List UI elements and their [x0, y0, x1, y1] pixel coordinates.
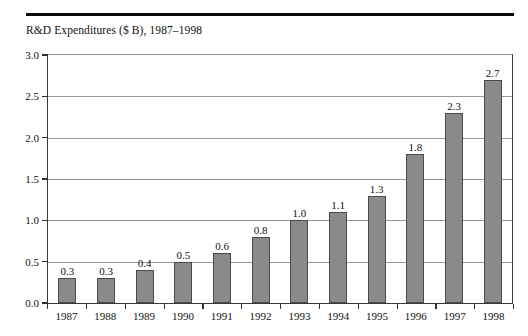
y-axis-tick-mark: [42, 261, 48, 262]
x-axis-tick-label: 1989: [125, 310, 164, 322]
bar: 2.7: [484, 80, 502, 303]
bar-value-label: 0.3: [60, 266, 74, 277]
x-axis-tick-mark: [319, 304, 320, 309]
bar-value-label: 1.1: [331, 200, 345, 211]
bar: 0.3: [58, 278, 76, 303]
bars-group: 0.30.30.40.50.60.81.01.11.31.82.32.7: [48, 55, 512, 303]
y-axis-tick-label: 3.0: [25, 50, 39, 61]
x-axis-tick-mark: [474, 304, 475, 309]
bar: 1.1: [329, 212, 347, 303]
x-axis-tick-mark: [513, 304, 514, 309]
bar-value-label: 1.0: [292, 208, 306, 219]
y-axis-tick-mark: [42, 178, 48, 179]
x-axis-tick-label: 1987: [47, 310, 86, 322]
x-axis-tick-mark: [86, 304, 87, 309]
x-axis-tick-mark: [435, 304, 436, 309]
bar-value-label: 1.8: [409, 142, 423, 153]
x-axis-tick-label: 1990: [163, 310, 202, 322]
bar: 1.0: [290, 220, 308, 303]
y-axis-tick-mark: [42, 302, 48, 303]
y-axis-tick-mark: [42, 220, 48, 221]
x-axis-tick-mark: [280, 304, 281, 309]
bar-slot: 0.4: [125, 55, 164, 303]
y-axis-tick-label: 0.0: [25, 298, 39, 309]
bar: 0.4: [136, 270, 154, 303]
y-axis-tick-label: 1.0: [25, 215, 39, 226]
bar-value-label: 0.8: [254, 225, 268, 236]
x-axis-tick-label: 1991: [202, 310, 241, 322]
bar-slot: 1.8: [396, 55, 435, 303]
x-axis-tick-mark: [202, 304, 203, 309]
x-axis-tick-mark: [241, 304, 242, 309]
bar-value-label: 0.6: [215, 241, 229, 252]
x-axis-tick-mark: [47, 304, 48, 309]
y-axis-tick-label: 2.0: [25, 132, 39, 143]
y-axis-tick-label: 2.5: [25, 91, 39, 102]
bar-slot: 0.5: [164, 55, 203, 303]
x-axis-ticks-group: [47, 304, 513, 309]
bar-slot: 0.6: [203, 55, 242, 303]
bar-slot: 0.3: [87, 55, 126, 303]
bar: 0.3: [97, 278, 115, 303]
x-axis-tick-label: 1995: [358, 310, 397, 322]
bar-value-label: 2.7: [486, 68, 500, 79]
bar: 1.8: [406, 154, 424, 303]
x-axis-tick-label: 1997: [435, 310, 474, 322]
y-axis-tick-mark: [42, 54, 48, 55]
x-axis-tick-label: 1992: [241, 310, 280, 322]
x-axis-tick-label: 1988: [86, 310, 125, 322]
bar-value-label: 0.4: [138, 258, 152, 269]
bar: 0.5: [174, 262, 192, 303]
bar-slot: 1.3: [357, 55, 396, 303]
bar: 0.8: [252, 237, 270, 303]
bar-slot: 1.0: [280, 55, 319, 303]
y-axis-tick-mark: [42, 96, 48, 97]
x-axis-tick-mark: [125, 304, 126, 309]
top-divider-rule: [26, 13, 514, 16]
bar-value-label: 2.3: [447, 101, 461, 112]
bar-slot: 2.7: [473, 55, 512, 303]
bar: 0.6: [213, 253, 231, 303]
x-axis-tick-mark: [397, 304, 398, 309]
plot-area: 0.00.51.01.52.02.53.0 0.30.30.40.50.60.8…: [47, 54, 513, 304]
chart-title: R&D Expenditures ($ B), 1987–1998: [26, 24, 202, 36]
bar-slot: 0.3: [48, 55, 87, 303]
x-axis-tick-label: 1996: [396, 310, 435, 322]
x-axis-tick-mark: [164, 304, 165, 309]
x-axis-labels-group: 1987198819891990199119921993199419951996…: [47, 310, 513, 322]
x-axis-tick-label: 1994: [319, 310, 358, 322]
bar: 1.3: [368, 196, 386, 303]
x-axis-tick-label: 1998: [474, 310, 513, 322]
bar: 2.3: [445, 113, 463, 303]
bar-slot: 0.8: [241, 55, 280, 303]
bar-value-label: 0.3: [99, 266, 113, 277]
bar-value-label: 1.3: [370, 184, 384, 195]
y-axis-tick-mark: [42, 137, 48, 138]
bar-slot: 1.1: [319, 55, 358, 303]
bar-slot: 2.3: [435, 55, 474, 303]
bar-value-label: 0.5: [176, 250, 190, 261]
x-axis-tick-mark: [358, 304, 359, 309]
y-axis-tick-label: 1.5: [25, 174, 39, 185]
x-axis-tick-label: 1993: [280, 310, 319, 322]
y-axis-tick-label: 0.5: [25, 256, 39, 267]
